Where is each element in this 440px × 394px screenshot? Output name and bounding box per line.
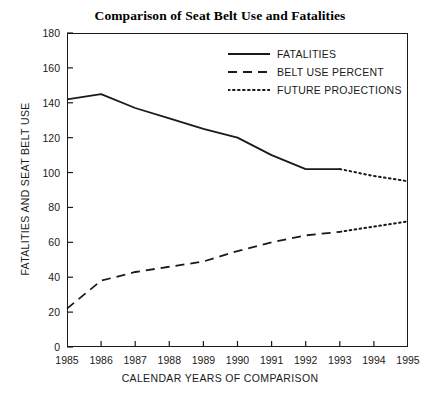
x-axis-title: CALENDAR YEARS OF COMPARISON bbox=[0, 372, 440, 384]
y-axis-tick-label: 0 bbox=[20, 342, 60, 352]
x-axis-tick-label: 1995 bbox=[388, 355, 428, 365]
series-line-fatalities bbox=[67, 94, 340, 169]
legend-label: FUTURE PROJECTIONS bbox=[277, 84, 402, 96]
chart-legend: FATALITIESBELT USE PERCENTFUTURE PROJECT… bbox=[228, 46, 408, 100]
chart-container: Comparison of Seat Belt Use and Fataliti… bbox=[0, 0, 440, 394]
y-axis-tick-label: 160 bbox=[20, 63, 60, 73]
y-axis-tick-label: 20 bbox=[20, 307, 60, 317]
y-axis-title: FATALITIES AND SEAT BELT USE bbox=[19, 89, 31, 289]
series-lines-group bbox=[67, 94, 408, 309]
series-line-future-projections bbox=[340, 169, 408, 181]
legend-label: FATALITIES bbox=[277, 48, 336, 60]
legend-item: FUTURE PROJECTIONS bbox=[228, 82, 408, 98]
legend-line-sample bbox=[228, 67, 270, 77]
legend-line-sample bbox=[228, 85, 270, 95]
series-line-future-projections bbox=[340, 221, 408, 231]
legend-line-sample bbox=[228, 49, 270, 59]
y-axis-tick-label: 180 bbox=[20, 28, 60, 38]
legend-label: BELT USE PERCENT bbox=[277, 66, 384, 78]
legend-item: BELT USE PERCENT bbox=[228, 64, 408, 80]
legend-item: FATALITIES bbox=[228, 46, 408, 62]
series-line-belt-use-percent bbox=[67, 232, 340, 309]
